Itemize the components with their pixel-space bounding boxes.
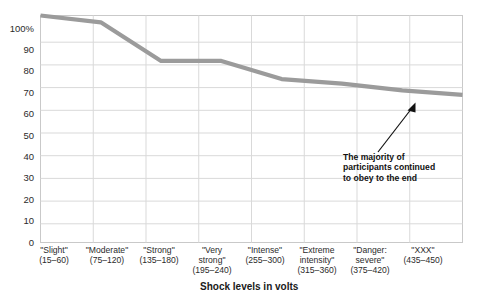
chart-annotation: The majority of participants continued t… — [343, 152, 473, 183]
x-category-label-7: "XXX" (435–450) — [383, 245, 463, 265]
chart-container: 100% 90 80 70 60 50 40 30 20 10 0 — [0, 0, 487, 299]
x-axis-title: Shock levels in volts — [200, 281, 298, 292]
